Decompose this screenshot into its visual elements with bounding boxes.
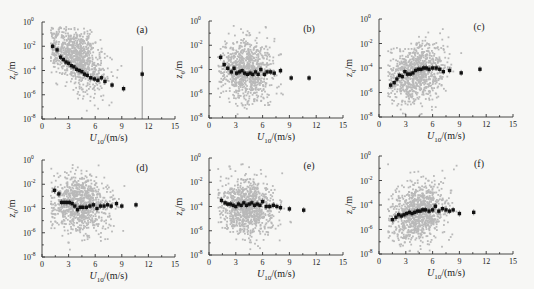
y-tick-label: 10-6 bbox=[360, 224, 373, 235]
panel-label: (b) bbox=[303, 23, 315, 35]
y-tick-label: 100 bbox=[190, 15, 201, 26]
x-tick-label: 9 bbox=[457, 257, 461, 266]
scatter-cloud bbox=[387, 163, 457, 252]
x-tick-label: 12 bbox=[312, 121, 320, 130]
y-tick-label: 10-8 bbox=[23, 113, 36, 124]
panel-label: (d) bbox=[136, 162, 148, 174]
x-tick-label: 12 bbox=[482, 120, 490, 129]
panel-e: 10010-210-410-610-803691215(e)U10/(m/s)z… bbox=[173, 152, 347, 282]
x-tick-label: 9 bbox=[457, 120, 461, 129]
y-tick-label: 100 bbox=[360, 13, 371, 24]
y-tick-label: 10-6 bbox=[190, 88, 203, 99]
y-tick-label: 10-2 bbox=[190, 176, 203, 187]
x-axis-title: U10/(m/s) bbox=[257, 131, 295, 145]
x-tick-label: 6 bbox=[261, 258, 265, 267]
panel-label: (e) bbox=[303, 160, 314, 172]
x-tick-label: 9 bbox=[120, 122, 124, 131]
x-tick-label: 3 bbox=[404, 120, 408, 129]
x-tick-label: 6 bbox=[431, 257, 435, 266]
x-tick-label: 6 bbox=[93, 260, 97, 269]
y-tick-label: 10-8 bbox=[360, 248, 373, 259]
y-tick-label: 10-2 bbox=[190, 39, 203, 50]
x-tick-label: 0 bbox=[40, 260, 44, 269]
y-axis-title: z0/m bbox=[6, 199, 20, 218]
y-tick-label: 10-4 bbox=[190, 201, 203, 212]
panel-label: (f) bbox=[474, 158, 484, 170]
x-tick-label: 15 bbox=[509, 257, 517, 266]
x-tick-label: 0 bbox=[377, 257, 381, 266]
y-tick-label: 10-8 bbox=[190, 249, 203, 260]
panel-a: 10010-210-410-610-803691215(a)U10/(m/s)z… bbox=[6, 16, 179, 146]
y-axis-title: zθ/m bbox=[173, 197, 187, 216]
y-tick-label: 100 bbox=[190, 152, 201, 163]
x-tick-label: 12 bbox=[144, 122, 152, 131]
x-tick-label: 15 bbox=[339, 258, 347, 267]
y-axis-title: zq/m bbox=[343, 59, 357, 78]
panel-label: (a) bbox=[136, 24, 147, 36]
x-tick-label: 12 bbox=[482, 257, 490, 266]
y-tick-label: 10-6 bbox=[23, 89, 36, 100]
x-tick-label: 6 bbox=[93, 122, 97, 131]
x-tick-label: 15 bbox=[339, 121, 347, 130]
y-axis-title: zθ/m bbox=[173, 60, 187, 79]
y-tick-label: 10-2 bbox=[360, 38, 373, 49]
y-tick-label: 10-4 bbox=[360, 62, 373, 73]
y-tick-label: 100 bbox=[360, 150, 371, 161]
x-tick-label: 0 bbox=[40, 122, 44, 131]
panel-f: 10010-210-410-610-803691215(f)U10/(m/s)z… bbox=[343, 150, 517, 281]
scatter-cloud bbox=[217, 25, 284, 115]
x-tick-label: 3 bbox=[234, 121, 238, 130]
panel-b: 10010-210-410-610-803691215(b)U10/(m/s)z… bbox=[173, 15, 347, 145]
y-tick-label: 10-8 bbox=[360, 111, 373, 122]
x-tick-label: 3 bbox=[67, 122, 71, 131]
x-axis-title: U10/(m/s) bbox=[89, 132, 127, 146]
x-tick-label: 9 bbox=[287, 121, 291, 130]
y-axis-title: zq/m bbox=[343, 196, 357, 215]
x-tick-label: 6 bbox=[261, 121, 265, 130]
figure-canvas: 10010-210-410-610-803691215(a)U10/(m/s)z… bbox=[0, 0, 534, 289]
y-tick-label: 100 bbox=[23, 16, 34, 27]
x-axis-title: U10/(m/s) bbox=[257, 268, 295, 282]
y-tick-label: 10-8 bbox=[23, 251, 36, 262]
x-tick-label: 9 bbox=[287, 258, 291, 267]
y-tick-label: 10-6 bbox=[360, 87, 373, 98]
x-tick-label: 12 bbox=[144, 260, 152, 269]
x-tick-label: 3 bbox=[67, 260, 71, 269]
x-tick-label: 12 bbox=[312, 258, 320, 267]
x-tick-label: 9 bbox=[120, 260, 124, 269]
y-tick-label: 10-6 bbox=[190, 225, 203, 236]
panel-label: (c) bbox=[473, 21, 484, 33]
y-tick-label: 10-4 bbox=[360, 199, 373, 210]
x-tick-label: 0 bbox=[207, 258, 211, 267]
x-tick-label: 0 bbox=[377, 120, 381, 129]
y-tick-label: 10-2 bbox=[23, 178, 36, 189]
panel-c: 10010-210-410-610-803691215(c)U10/(m/s)z… bbox=[343, 13, 517, 144]
x-tick-label: 0 bbox=[207, 121, 211, 130]
y-axis-title: z0/m bbox=[6, 61, 20, 80]
scatter-cloud bbox=[50, 26, 122, 112]
y-tick-label: 10-8 bbox=[190, 112, 203, 123]
y-tick-label: 10-6 bbox=[23, 227, 36, 238]
x-tick-label: 15 bbox=[509, 120, 517, 129]
y-tick-label: 10-2 bbox=[23, 40, 36, 51]
y-tick-label: 100 bbox=[23, 154, 34, 165]
x-tick-label: 3 bbox=[404, 257, 408, 266]
x-tick-label: 3 bbox=[234, 258, 238, 267]
x-axis-title: U10/(m/s) bbox=[427, 267, 465, 281]
panel-d: 10010-210-410-610-803691215(d)U10/(m/s)z… bbox=[6, 154, 179, 284]
x-tick-label: 6 bbox=[431, 120, 435, 129]
y-tick-label: 10-4 bbox=[190, 64, 203, 75]
x-tick-label: 15 bbox=[171, 260, 179, 269]
y-tick-label: 10-4 bbox=[23, 203, 36, 214]
x-tick-label: 15 bbox=[171, 122, 179, 131]
y-tick-label: 10-4 bbox=[23, 65, 36, 76]
x-axis-title: U10/(m/s) bbox=[427, 130, 465, 144]
y-tick-label: 10-2 bbox=[360, 175, 373, 186]
x-axis-title: U10/(m/s) bbox=[89, 270, 127, 284]
